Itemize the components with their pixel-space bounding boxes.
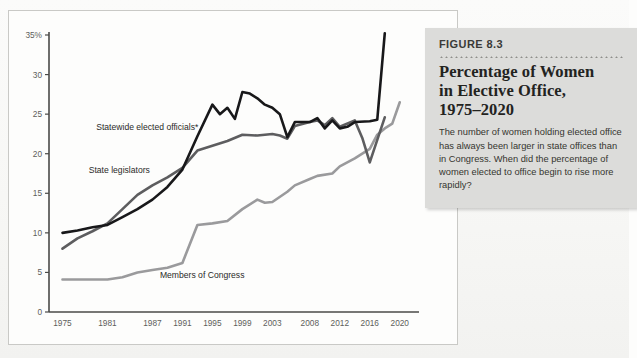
figure-number-label: FIGURE 8.3 [439, 38, 625, 50]
x-tick-label: 1999 [233, 318, 252, 328]
figure-title-line-3: 1975–2020 [439, 100, 625, 119]
y-tick-label: 5 [37, 267, 42, 277]
x-tick-label: 2008 [301, 318, 320, 328]
y-tick-label: 30 [33, 70, 43, 80]
line-chart: 05101520253035%1975198119871991199519992… [9, 11, 459, 346]
x-tick-label: 1975 [53, 318, 72, 328]
y-tick-label: 0 [37, 307, 42, 317]
series-line [62, 117, 384, 248]
figure-title: Percentage of Women in Elective Office, … [439, 62, 625, 119]
dotted-divider [439, 53, 625, 58]
series-label: State legislators [89, 165, 150, 175]
series-label: Statewide elected officials* [96, 122, 199, 132]
chart-frame: 05101520253035%1975198119871991199519992… [8, 10, 458, 345]
x-tick-label: 2012 [331, 318, 350, 328]
x-tick-label: 2016 [361, 318, 380, 328]
figure-caption: The number of women holding elected offi… [439, 126, 625, 192]
x-tick-label: 1991 [173, 318, 192, 328]
figure-title-line-2: in Elective Office, [439, 81, 625, 100]
x-tick-label: 1995 [203, 318, 222, 328]
x-tick-label: 1981 [98, 318, 117, 328]
series-label: Members of Congress [160, 270, 245, 280]
figure-callout-box: FIGURE 8.3 Percentage of Women in Electi… [425, 28, 637, 208]
x-tick-label: 1987 [143, 318, 162, 328]
y-tick-label: 10 [33, 228, 43, 238]
x-tick-label: 2003 [263, 318, 282, 328]
series-line [62, 33, 384, 232]
y-tick-label: 15 [33, 188, 43, 198]
y-tick-label: 25 [33, 109, 43, 119]
y-tick-label: 20 [33, 149, 43, 159]
x-tick-label: 2020 [391, 318, 410, 328]
y-tick-label: 35% [25, 30, 42, 40]
figure-title-line-1: Percentage of Women [439, 62, 625, 81]
